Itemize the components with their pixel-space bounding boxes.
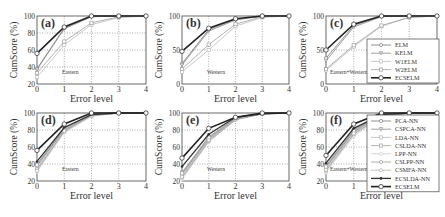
y-axis-label: CumScore (%): [9, 22, 20, 79]
panel-label: (c): [330, 16, 343, 30]
svg-text:CSLDA-NN: CSLDA-NN: [395, 142, 427, 149]
x-tick-label: 0: [35, 85, 39, 94]
y-tick-label: 40: [173, 160, 181, 169]
y-axis-label: CumScore (%): [298, 119, 309, 176]
panel-label: (d): [41, 113, 56, 127]
y-tick-label: 100: [313, 109, 325, 118]
y-tick-label: 100: [24, 109, 36, 118]
x-tick-label: 1: [207, 182, 211, 191]
x-axis-label: Error level: [70, 190, 113, 201]
x-tick-label: 0: [35, 182, 39, 191]
chart-panel-f: 0123420406080100Error levelCumScore (%)(…: [298, 109, 439, 202]
y-tick-label: 20: [28, 177, 36, 186]
svg-text:LPP-NN: LPP-NN: [395, 150, 417, 157]
x-tick-label: 3: [407, 85, 411, 94]
x-tick-label: 4: [144, 85, 148, 94]
chart-panel-e: 0123420406080100Error levelCumScore (%)(…: [154, 109, 291, 202]
x-tick-label: 1: [62, 182, 66, 191]
x-tick-label: 0: [180, 182, 184, 191]
x-tick-label: 3: [260, 182, 264, 191]
panel-label: (a): [41, 16, 55, 30]
chart-panel-b: 01234050100Error levelCumScore (%)(b)Wes…: [154, 12, 291, 105]
y-tick-label: 100: [24, 12, 36, 21]
y-tick-label: 60: [317, 143, 325, 152]
y-tick-label: 40: [28, 63, 36, 72]
y-tick-label: 0: [176, 80, 180, 89]
y-tick-label: 20: [173, 177, 181, 186]
svg-text:LDA-NN: LDA-NN: [395, 134, 419, 141]
dataset-annotation: Western: [207, 166, 225, 172]
legend: ELMKELMW1ELMW2ELMECSELM: [367, 39, 439, 83]
svg-text:CSPCA-NN: CSPCA-NN: [395, 125, 426, 132]
y-tick-label: 80: [317, 126, 325, 135]
x-tick-label: 0: [180, 85, 184, 94]
y-tick-label: 40: [28, 160, 36, 169]
x-axis-label: Error level: [360, 93, 403, 104]
y-tick-label: 50: [317, 46, 325, 55]
legend: PCA-NNCSPCA-NNLDA-NNCSLDA-NNLPP-NNCSLPP-…: [367, 115, 439, 192]
x-tick-label: 4: [287, 85, 291, 94]
y-tick-label: 60: [173, 143, 181, 152]
svg-text:ECSELM: ECSELM: [395, 74, 420, 81]
dataset-annotation: Eastern: [62, 166, 79, 172]
dataset-annotation: Eastern+Western: [330, 166, 368, 172]
dataset-annotation: Western: [207, 69, 225, 75]
y-tick-label: 20: [317, 177, 325, 186]
y-tick-label: 40: [317, 160, 325, 169]
x-axis-label: Error level: [214, 190, 257, 201]
svg-text:CSLPP-NN: CSLPP-NN: [395, 158, 425, 165]
svg-text:PCA-NN: PCA-NN: [395, 117, 419, 124]
panel-label: (f): [330, 113, 342, 127]
svg-text:ECSLDA-NN: ECSLDA-NN: [395, 175, 431, 182]
y-axis-label: CumScore (%): [298, 22, 309, 79]
svg-text:CSMFA-NN: CSMFA-NN: [395, 166, 427, 173]
x-tick-label: 0: [324, 85, 328, 94]
svg-text:ELM: ELM: [395, 41, 409, 48]
dataset-annotation: Eastern: [62, 69, 79, 75]
x-tick-label: 3: [117, 182, 121, 191]
x-tick-label: 4: [287, 182, 291, 191]
y-axis-label: CumScore (%): [154, 22, 165, 79]
y-tick-label: 100: [169, 12, 181, 21]
x-tick-label: 4: [435, 85, 439, 94]
y-tick-label: 100: [169, 109, 181, 118]
chart-panel-d: 0123420406080100Error levelCumScore (%)(…: [9, 109, 148, 202]
y-axis-label: CumScore (%): [9, 119, 20, 176]
x-tick-label: 1: [207, 85, 211, 94]
y-tick-label: 80: [28, 126, 36, 135]
svg-text:W2ELM: W2ELM: [395, 66, 417, 73]
panel-label: (e): [186, 113, 199, 127]
y-tick-label: 60: [28, 46, 36, 55]
panel-label: (b): [186, 16, 201, 30]
x-tick-label: 3: [117, 85, 121, 94]
y-axis-label: CumScore (%): [154, 119, 165, 176]
y-tick-label: 50: [173, 46, 181, 55]
x-axis-label: Error level: [70, 93, 113, 104]
y-tick-label: 60: [28, 143, 36, 152]
x-tick-label: 1: [352, 182, 356, 191]
x-axis-label: Error level: [214, 93, 257, 104]
y-tick-label: 80: [173, 126, 181, 135]
x-tick-label: 0: [324, 182, 328, 191]
x-tick-label: 1: [352, 85, 356, 94]
x-tick-label: 1: [62, 85, 66, 94]
svg-text:KELM: KELM: [395, 49, 413, 56]
dataset-annotation: Eastern+Western: [330, 69, 368, 75]
y-tick-label: 20: [28, 80, 36, 89]
svg-text:ECSELM: ECSELM: [395, 183, 420, 190]
chart-panel-a: 0123420406080100Error levelCumScore (%)(…: [9, 12, 148, 105]
x-tick-label: 3: [260, 85, 264, 94]
chart-panel-c: 01234050100Error levelCumScore (%)(c)Eas…: [298, 12, 439, 105]
y-tick-label: 80: [28, 29, 36, 38]
y-tick-label: 100: [313, 12, 325, 21]
figure: 0123420406080100Error levelCumScore (%)(…: [0, 0, 445, 217]
svg-text:W1ELM: W1ELM: [395, 58, 417, 65]
x-tick-label: 4: [144, 182, 148, 191]
y-tick-label: 0: [320, 80, 324, 89]
